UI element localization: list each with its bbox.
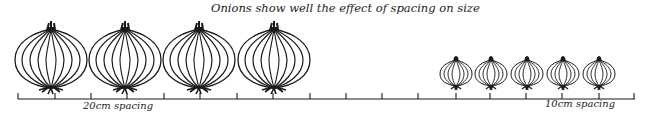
small-onion-icon — [583, 56, 615, 90]
ruler — [18, 93, 635, 99]
narrow-spacing-label: 10cm spacing — [545, 98, 615, 109]
small-onion-icon — [511, 56, 543, 90]
small-onion-icon — [475, 56, 507, 90]
small-onion-icon — [547, 56, 579, 90]
large-onion-icon — [15, 21, 87, 94]
wide-spacing-label: 20cm spacing — [83, 100, 153, 111]
large-onion-icon — [89, 21, 161, 94]
large-onion-group — [15, 21, 310, 94]
small-onion-icon — [440, 56, 472, 90]
large-onion-icon — [238, 21, 310, 94]
large-onion-icon — [163, 21, 235, 94]
small-onion-group — [440, 56, 615, 90]
